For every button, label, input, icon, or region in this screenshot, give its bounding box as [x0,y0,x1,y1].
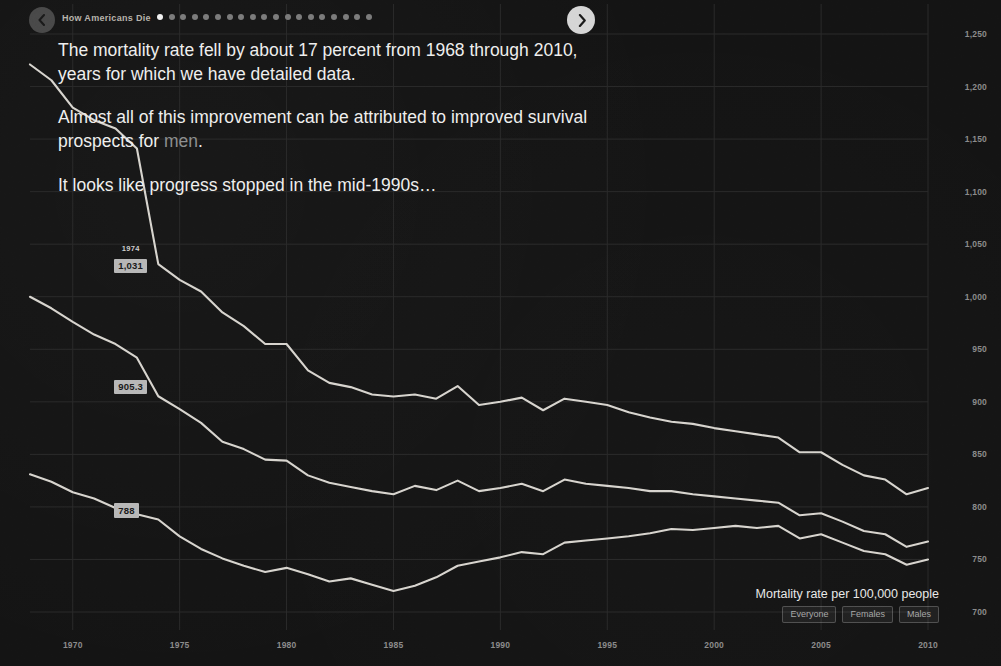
legend-button-everyone[interactable]: Everyone [782,606,836,624]
pagination-dot-13[interactable] [296,14,302,20]
pagination-dot-19[interactable] [366,14,372,20]
pagination-dot-16[interactable] [331,14,337,20]
narrative-paragraph-1: The mortality rate fell by about 17 perc… [58,38,618,86]
legend-button-females[interactable]: Females [842,606,893,624]
annotation-value-chip: 788 [114,503,138,518]
narrative-paragraph-2: Almost all of this improvement can be at… [58,105,618,153]
prev-slide-button[interactable] [29,7,55,33]
narrative-p2-after: . [198,131,203,151]
pagination-dot-10[interactable] [261,14,267,20]
pagination-dot-8[interactable] [238,14,244,20]
pagination-dot-4[interactable] [192,14,198,20]
chevron-right-icon [576,14,587,27]
narrative-paragraph-3: It looks like progress stopped in the mi… [58,173,618,197]
next-slide-button[interactable] [567,6,595,34]
chevron-left-icon [37,14,47,26]
pagination-dot-5[interactable] [203,14,209,20]
pagination-dot-15[interactable] [319,14,325,20]
annotation-everyone: 905.3 [114,376,147,394]
pagination-dot-6[interactable] [215,14,221,20]
legend-button-males[interactable]: Males [899,606,939,624]
pagination-dot-7[interactable] [227,14,233,20]
slide-header: How Americans Die [0,0,1001,42]
slide-pagination[interactable] [157,14,372,20]
series-legend: EveryoneFemalesMales [756,606,939,624]
pagination-dot-9[interactable] [250,14,256,20]
pagination-dot-3[interactable] [180,14,186,20]
pagination-dot-1[interactable] [157,14,163,20]
annotation-value-chip: 1,031 [114,259,147,274]
deck-title: How Americans Die [62,13,151,23]
chart-footer: Mortality rate per 100,000 people Everyo… [756,587,939,624]
pagination-dot-12[interactable] [285,14,291,20]
pagination-dot-18[interactable] [354,14,360,20]
annotation-females: 788 [114,500,138,518]
pagination-dot-2[interactable] [169,14,175,20]
narrative-text: The mortality rate fell by about 17 perc… [58,38,618,197]
chart-caption: Mortality rate per 100,000 people [756,587,939,601]
narrative-highlight-men: men [164,131,198,151]
pagination-dot-11[interactable] [273,14,279,20]
pagination-dot-17[interactable] [343,14,349,20]
narrative-p2-before: Almost all of this improvement can be at… [58,107,587,151]
annotation-value-row: 788 [114,500,138,518]
pagination-dot-14[interactable] [308,14,314,20]
annotation-value-chip: 905.3 [114,380,147,395]
annotation-value-row: 905.3 [114,376,147,394]
series-line-everyone [30,297,928,547]
annotation-males: 19741,031 [114,244,147,273]
annotation-year-label: 1974 [114,244,147,253]
slide-root: 1,2501,2001,1501,1001,0501,0009509008508… [0,0,1001,666]
annotation-value-row: 1,031 [114,255,147,273]
